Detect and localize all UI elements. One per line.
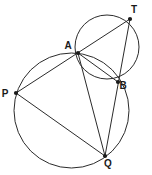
- segment-P-T: [16, 19, 130, 93]
- segment-P-Q: [16, 93, 105, 156]
- point-label-T: T: [131, 4, 137, 15]
- point-label-Q: Q: [104, 158, 112, 169]
- geometry-figure: T A B P Q: [0, 0, 152, 175]
- vertex-dot-P: [14, 91, 18, 95]
- point-label-A: A: [64, 40, 71, 51]
- large-circle: [14, 53, 129, 168]
- vertex-dot-A: [76, 51, 80, 55]
- point-label-B: B: [119, 80, 126, 91]
- point-label-P: P: [2, 88, 9, 99]
- vertex-dot-T: [128, 17, 132, 21]
- geometry-canvas: T A B P Q: [0, 0, 152, 175]
- segment-A-Q: [78, 53, 105, 156]
